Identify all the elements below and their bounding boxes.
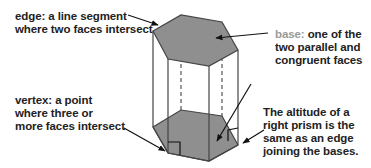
vertex-def-line1: a point <box>52 94 92 106</box>
altitude-arrow <box>243 130 264 143</box>
base-term: base: <box>275 28 305 40</box>
altitude-line2: right prism is the <box>263 119 358 132</box>
bottom-base-face <box>153 110 238 161</box>
altitude-label: The altitude of a right prism is the sam… <box>263 106 358 158</box>
vertex-term: vertex: <box>15 94 52 106</box>
edge-def-line1: a line segment <box>45 10 127 22</box>
altitude-line4: joining the bases. <box>263 145 358 158</box>
altitude-line3: same as an edge <box>263 132 358 145</box>
vertex-label: vertex: a point where three or more face… <box>15 94 125 133</box>
edge-label: edge: a line segment where two faces int… <box>15 10 152 36</box>
vertex-def-line2: where three or <box>15 107 125 120</box>
altitude-line1: The altitude of a <box>263 106 358 119</box>
top-base-face <box>153 15 238 66</box>
edge-term: edge: <box>15 10 45 22</box>
base-def-line1: one of the <box>305 28 362 40</box>
base-def-line2: two parallel and <box>275 41 362 54</box>
vertex-def-line3: more faces intersect <box>15 120 125 133</box>
base-def-line3: congruent faces <box>275 54 362 67</box>
edge-def-line2: where two faces intersect <box>15 23 152 36</box>
base-label: base: one of the two parallel and congru… <box>275 28 362 67</box>
